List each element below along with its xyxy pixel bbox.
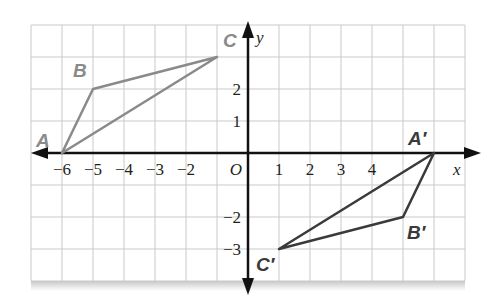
x-tick-label: −4 bbox=[115, 160, 134, 179]
vertex-label: C′ bbox=[256, 254, 276, 275]
y-tick-label: 2 bbox=[233, 80, 242, 99]
arrow-down-icon bbox=[242, 278, 254, 295]
arrow-up-icon bbox=[242, 21, 254, 38]
y-tick-label: 1 bbox=[233, 112, 242, 131]
x-axis-label: x bbox=[452, 160, 461, 179]
coordinate-plane: −6−5−4−3−2123421−2−3Oxy ABCA′B′C′ bbox=[0, 0, 488, 300]
y-tick-label: −3 bbox=[223, 240, 241, 259]
coordinate-plane-figure: −6−5−4−3−2123421−2−3Oxy ABCA′B′C′ bbox=[0, 0, 488, 300]
vertex-label: A bbox=[35, 130, 50, 151]
x-tick-label: 3 bbox=[337, 160, 346, 179]
arrow-right-icon bbox=[464, 147, 481, 159]
origin-label: O bbox=[230, 160, 242, 179]
x-tick-label: −3 bbox=[146, 160, 164, 179]
x-tick-label: 1 bbox=[275, 160, 284, 179]
x-tick-label: 2 bbox=[306, 160, 315, 179]
vertex-label: B bbox=[73, 60, 87, 81]
x-tick-label: −5 bbox=[84, 160, 102, 179]
y-tick-label: −2 bbox=[223, 208, 241, 227]
x-tick-label: −2 bbox=[177, 160, 195, 179]
vertex-label: B′ bbox=[407, 222, 427, 243]
y-axis-label: y bbox=[254, 28, 264, 47]
x-tick-label: −6 bbox=[53, 160, 71, 179]
x-tick-label: 4 bbox=[368, 160, 377, 179]
vertex-label: C bbox=[223, 30, 237, 51]
tick-labels: −6−5−4−3−2123421−2−3Oxy bbox=[53, 28, 461, 259]
vertex-label: A′ bbox=[407, 128, 428, 149]
